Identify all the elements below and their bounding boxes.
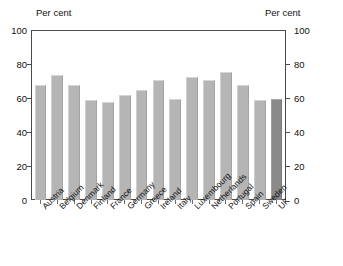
bar-slot: [32, 31, 49, 200]
x-label-slot: Spain: [234, 204, 251, 266]
bar-slot: [251, 31, 268, 200]
bar-slot: [201, 31, 218, 200]
y-axis-right-mark-60: [286, 98, 290, 99]
x-label-slot: Denmark: [66, 204, 83, 266]
y-axis-right-tick-40: 40: [294, 128, 320, 138]
y-axis-left-mark-40: [27, 132, 31, 133]
bar-slot: [268, 31, 285, 200]
x-label-slot: Italy: [167, 204, 184, 266]
x-label-slot: UK: [268, 204, 285, 266]
x-label-slot: Finland: [83, 204, 100, 266]
y-axis-right-mark-20: [286, 166, 290, 167]
y-axis-right-mark-40: [286, 132, 290, 133]
y-axis-left-tick-40: 40: [3, 128, 27, 138]
bar-slot: [49, 31, 66, 200]
y-axis-left-tick-60: 60: [3, 94, 27, 104]
left-axis-unit-label: Per cent: [36, 7, 71, 18]
y-axis-left-tick-80: 80: [3, 60, 27, 70]
y-axis-right-mark-80: [286, 64, 290, 65]
x-label-slot: Austria: [32, 204, 49, 266]
right-axis-unit-label: Per cent: [265, 7, 300, 18]
y-axis-left-tick-0: 0: [3, 196, 27, 206]
y-axis-right-tick-0: 0: [294, 196, 320, 206]
bar-slot: [184, 31, 201, 200]
bar-slot: [150, 31, 167, 200]
y-axis-left-tick-20: 20: [3, 162, 27, 172]
x-label-slot: Luxembourg: [184, 204, 201, 266]
x-label-slot: Belgium: [49, 204, 66, 266]
x-label-slot: France: [99, 204, 116, 266]
bar-austria: [35, 85, 47, 200]
y-axis-left-mark-20: [27, 166, 31, 167]
bar-chart: Per cent Per cent 100 80 60 40 20 0 100 …: [0, 0, 343, 266]
x-label-slot: Ireland: [150, 204, 167, 266]
y-axis-right-tick-20: 20: [294, 162, 320, 172]
bar-belgium: [51, 75, 63, 200]
y-axis-left-mark-60: [27, 98, 31, 99]
x-label-slot: Portugal: [217, 204, 234, 266]
bar-luxembourg: [186, 77, 198, 200]
bar-slot: [167, 31, 184, 200]
x-axis-labels: AustriaBelgiumDenmarkFinlandFranceGerman…: [32, 204, 285, 266]
bar-series: [32, 31, 285, 200]
y-axis-left-tick-100: 100: [3, 26, 27, 36]
bar-sweden: [254, 100, 266, 200]
bar-slot: [99, 31, 116, 200]
bar-ireland: [153, 80, 165, 200]
x-label-slot: Greece: [133, 204, 150, 266]
bar-slot: [83, 31, 100, 200]
x-label-slot: Germany: [116, 204, 133, 266]
x-label-slot: Sweden: [251, 204, 268, 266]
bar-germany: [119, 95, 131, 200]
bar-slot: [66, 31, 83, 200]
y-axis-left-mark-80: [27, 64, 31, 65]
chart-title: [0, 0, 343, 2]
bar-slot: [116, 31, 133, 200]
x-label-slot: Netherlands: [201, 204, 218, 266]
bar-slot: [133, 31, 150, 200]
y-axis-right-tick-80: 80: [294, 60, 320, 70]
y-axis-right-tick-60: 60: [294, 94, 320, 104]
y-axis-right-tick-100: 100: [294, 26, 320, 36]
